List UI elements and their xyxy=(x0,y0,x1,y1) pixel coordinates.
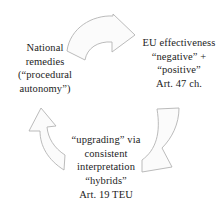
cycle-diagram: National remedies (“procedural autonomy”… xyxy=(0,0,224,218)
text-line: remedies xyxy=(2,55,88,69)
text-line: Art. 19 TEU xyxy=(58,188,154,202)
text-line: “upgrading” via xyxy=(58,133,154,147)
text-line: autonomy”) xyxy=(2,82,88,96)
text-line: interpretation xyxy=(58,160,154,174)
text-block-upgrading: “upgrading” via consistent interpretatio… xyxy=(58,133,154,201)
text-block-national-remedies: National remedies (“procedural autonomy”… xyxy=(2,41,88,96)
text-line: “negative” + xyxy=(134,50,224,64)
text-line: “hybrids” xyxy=(58,174,154,188)
text-block-eu-effectiveness: EU effectiveness “negative” + “positive”… xyxy=(134,36,224,91)
text-line: Art. 47 ch. xyxy=(134,77,224,91)
text-line: National xyxy=(2,41,88,55)
text-line: consistent xyxy=(58,147,154,161)
text-line: (“procedural xyxy=(2,68,88,82)
text-line: EU effectiveness xyxy=(134,36,224,50)
text-line: “positive” xyxy=(134,63,224,77)
